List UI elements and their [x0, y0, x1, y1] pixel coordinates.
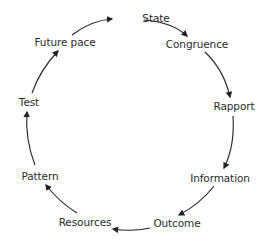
- node-rapport: Rapport: [214, 100, 255, 112]
- node-resources: Resources: [59, 216, 112, 228]
- arrow-future-pace-to-state: [72, 19, 112, 35]
- arrow-information-to-outcome: [179, 186, 214, 215]
- node-outcome: Outcome: [153, 217, 200, 229]
- arrow-rapport-to-information: [224, 116, 233, 168]
- node-congruence: Congruence: [166, 38, 228, 50]
- node-pattern: Pattern: [21, 170, 58, 182]
- node-state: State: [142, 12, 169, 24]
- arrow-resources-to-pattern: [46, 185, 77, 213]
- node-information: Information: [190, 172, 250, 184]
- node-future-pace: Future pace: [34, 36, 95, 48]
- arrow-outcome-to-resources: [113, 228, 150, 230]
- cycle-diagram: State Congruence Rapport Information Out…: [0, 0, 265, 244]
- node-test: Test: [19, 96, 39, 108]
- arrow-test-to-future-pace: [32, 51, 58, 93]
- arrow-congruence-to-rapport: [205, 52, 230, 97]
- arrow-pattern-to-test: [27, 112, 35, 165]
